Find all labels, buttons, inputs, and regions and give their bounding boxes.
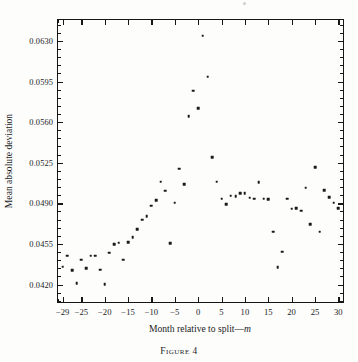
y-axis-minor-tick-right xyxy=(340,236,343,237)
x-axis-tick-top xyxy=(151,20,152,25)
data-point xyxy=(75,282,78,285)
y-axis-tick xyxy=(58,163,63,164)
x-axis-tick-label: −10 xyxy=(145,307,158,317)
y-axis-minor-tick xyxy=(58,276,61,277)
x-axis-tick-label: 25 xyxy=(311,307,320,317)
y-axis-tick-label: 0.0630 xyxy=(29,36,53,45)
data-point xyxy=(188,115,191,118)
data-point xyxy=(211,156,214,159)
y-axis-minor-tick xyxy=(58,130,61,131)
x-axis-tick-label: −15 xyxy=(121,307,134,317)
y-axis-minor-tick-right xyxy=(340,25,343,26)
data-point xyxy=(174,201,177,204)
data-point xyxy=(328,196,331,199)
y-axis-minor-tick xyxy=(58,260,61,261)
y-axis-minor-tick-right xyxy=(340,138,343,139)
y-axis-minor-tick xyxy=(58,33,61,34)
data-point xyxy=(286,197,289,200)
data-point xyxy=(136,228,139,231)
y-axis-minor-tick xyxy=(58,293,61,294)
y-axis-minor-tick xyxy=(58,25,61,26)
x-axis-tick-label: −29 xyxy=(56,307,69,317)
y-axis-tick-right xyxy=(338,244,343,245)
y-axis-minor-tick xyxy=(58,171,61,172)
y-axis-minor-tick-right xyxy=(340,98,343,99)
x-axis-tick xyxy=(268,297,269,302)
y-axis-minor-tick-right xyxy=(340,49,343,50)
y-axis-minor-tick-right xyxy=(340,155,343,156)
y-axis-minor-tick-right xyxy=(340,293,343,294)
x-axis-tick-top xyxy=(63,20,64,25)
data-point xyxy=(141,218,144,221)
y-axis-minor-tick-right xyxy=(340,106,343,107)
y-axis-tick xyxy=(58,244,63,245)
y-axis-tick-label: 0.0525 xyxy=(29,158,53,167)
data-point xyxy=(234,195,237,198)
y-axis-tick-right xyxy=(338,82,343,83)
figure-caption: Figure 4 xyxy=(160,346,198,356)
y-axis-minor-tick-right xyxy=(340,276,343,277)
data-point xyxy=(202,34,205,37)
x-axis-tick xyxy=(81,297,82,302)
y-axis-tick-label: 0.0560 xyxy=(29,118,53,127)
x-axis-tick-label: −20 xyxy=(98,307,111,317)
y-axis-tick-right xyxy=(338,41,343,42)
data-point xyxy=(108,251,111,254)
x-axis-title: Month relative to split—m xyxy=(149,323,251,334)
x-axis-tick-top xyxy=(245,20,246,25)
y-axis-minor-tick xyxy=(58,65,61,66)
data-point xyxy=(61,265,64,268)
data-point xyxy=(323,189,326,192)
x-axis-tick xyxy=(292,297,293,302)
data-point xyxy=(318,230,321,233)
plot-frame: 0.04200.04550.04900.05250.05600.05950.06… xyxy=(57,19,344,303)
y-axis-tick-label: 0.0420 xyxy=(29,280,53,289)
x-axis-tick xyxy=(222,297,223,302)
x-axis-tick-top xyxy=(81,20,82,25)
y-axis-minor-tick-right xyxy=(340,146,343,147)
data-point xyxy=(281,250,284,253)
x-axis-title-variable: m xyxy=(244,323,251,334)
y-axis-tick-right xyxy=(338,122,343,123)
y-axis-minor-tick-right xyxy=(340,268,343,269)
y-axis-minor-tick xyxy=(58,187,61,188)
data-point xyxy=(314,166,317,169)
y-axis-minor-tick xyxy=(58,236,61,237)
x-axis-tick-label: −5 xyxy=(170,307,179,317)
data-point xyxy=(244,192,247,195)
data-point xyxy=(253,197,256,200)
data-point xyxy=(304,186,307,189)
y-axis-minor-tick xyxy=(58,228,61,229)
y-axis-minor-tick xyxy=(58,155,61,156)
y-axis-tick xyxy=(58,203,63,204)
data-point xyxy=(103,283,106,286)
y-axis-minor-tick-right xyxy=(340,33,343,34)
data-point xyxy=(197,107,200,110)
y-axis-minor-tick xyxy=(58,138,61,139)
x-axis-tick xyxy=(315,297,316,302)
y-axis-minor-tick-right xyxy=(340,211,343,212)
data-point xyxy=(169,242,172,245)
y-axis-title: Mean absolute deviation xyxy=(3,114,14,208)
data-point xyxy=(164,189,167,192)
y-axis-minor-tick xyxy=(58,98,61,99)
x-axis-tick xyxy=(245,297,246,302)
y-axis-minor-tick-right xyxy=(340,220,343,221)
y-axis-minor-tick xyxy=(58,252,61,253)
data-point xyxy=(113,243,116,246)
data-point xyxy=(192,89,195,92)
x-axis-minor-tick xyxy=(58,299,59,302)
scan-artifact-speck xyxy=(243,2,246,5)
data-point xyxy=(122,258,125,261)
y-axis-tick-right xyxy=(338,203,343,204)
x-axis-tick xyxy=(338,297,339,302)
data-point xyxy=(150,204,153,207)
data-point xyxy=(337,207,340,210)
y-axis-minor-tick-right xyxy=(340,228,343,229)
data-point xyxy=(159,181,162,184)
data-point xyxy=(206,76,209,79)
data-point xyxy=(66,254,69,257)
data-point xyxy=(89,254,92,257)
y-axis-minor-tick-right xyxy=(340,65,343,66)
y-axis-minor-tick xyxy=(58,220,61,221)
